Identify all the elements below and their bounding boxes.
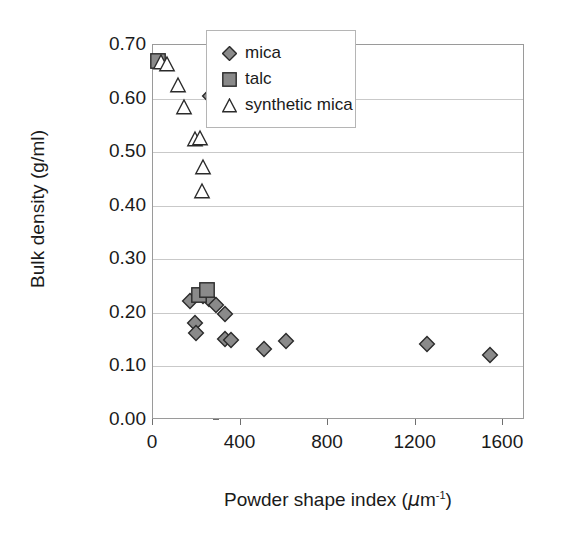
x-tick-mark xyxy=(152,419,153,425)
y-tick-label: 0.60 xyxy=(72,87,146,109)
x-axis-title: Powder shape index (μm-1) xyxy=(152,488,524,511)
x-tick-label: 400 xyxy=(205,431,275,453)
y-tick-label: 0.10 xyxy=(72,354,146,376)
data-point-synthetic-mica xyxy=(159,56,175,72)
data-point-synthetic-mica xyxy=(192,130,208,146)
x-tick-label: 800 xyxy=(292,431,362,453)
gridline xyxy=(153,366,523,367)
gridline xyxy=(153,152,523,153)
data-point-mica xyxy=(482,347,498,363)
data-point-mica xyxy=(217,306,233,322)
x-tick-mark xyxy=(415,419,416,425)
legend-item-mica[interactable]: mica xyxy=(207,40,355,66)
y-tick-label: 0.20 xyxy=(72,301,146,323)
square-icon xyxy=(219,69,239,89)
unit-exponent: -1 xyxy=(436,489,446,501)
x-tick-mark xyxy=(327,419,328,425)
legend-label: talc xyxy=(245,69,271,89)
data-point-synthetic-mica xyxy=(194,183,210,199)
triangle-icon xyxy=(219,95,239,115)
data-point-synthetic-mica xyxy=(195,159,211,175)
x-tick-label: 0 xyxy=(117,431,187,453)
data-point-synthetic-mica xyxy=(170,77,186,93)
mu-symbol: μ xyxy=(408,488,420,510)
x-tick-label: 1200 xyxy=(380,431,450,453)
y-tick-label: 0.70 xyxy=(72,33,146,55)
data-point-synthetic-mica xyxy=(176,99,192,115)
diamond-icon xyxy=(219,43,239,63)
chart-legend: micatalcsynthetic mica xyxy=(206,30,356,128)
data-point-mica xyxy=(223,332,239,348)
y-tick-label: 0.40 xyxy=(72,194,146,216)
legend-item-synthetic-mica[interactable]: synthetic mica xyxy=(207,92,355,118)
legend-label: mica xyxy=(245,43,281,63)
legend-label: synthetic mica xyxy=(245,95,353,115)
gridline xyxy=(153,313,523,314)
data-point-mica xyxy=(256,341,272,357)
x-tick-mark xyxy=(240,419,241,425)
data-point-talc xyxy=(199,282,215,298)
y-tick-label: 0.00 xyxy=(72,408,146,430)
data-point-mica xyxy=(419,336,435,352)
data-point-mica xyxy=(188,325,204,341)
x-tick-mark xyxy=(502,419,503,425)
y-axis-ticks: 0.000.100.200.300.400.500.600.70 xyxy=(66,44,146,419)
gridline xyxy=(153,206,523,207)
x-axis-ticks: 040080012001600 xyxy=(152,419,524,459)
x-tick-label: 1600 xyxy=(467,431,537,453)
y-tick-label: 0.30 xyxy=(72,247,146,269)
gridline xyxy=(153,259,523,260)
legend-item-talc[interactable]: talc xyxy=(207,66,355,92)
scatter-chart-figure: Bulk density (g/ml) 0.000.100.200.300.40… xyxy=(0,0,573,537)
y-tick-label: 0.50 xyxy=(72,140,146,162)
y-axis-title: Bulk density (g/ml) xyxy=(27,79,49,339)
data-point-mica xyxy=(278,333,294,349)
